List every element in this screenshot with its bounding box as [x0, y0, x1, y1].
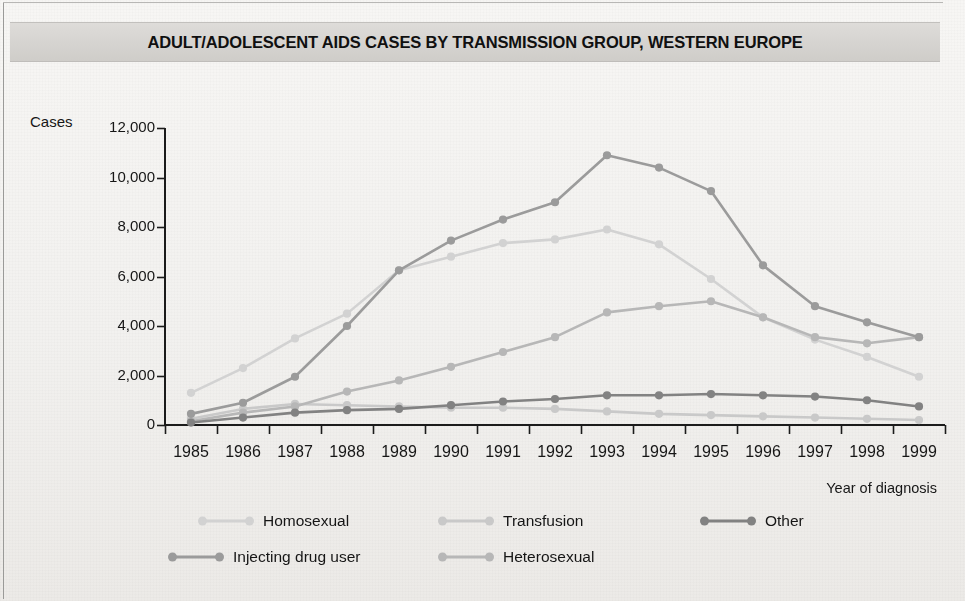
x-axis-tick-label: 1999: [893, 443, 945, 461]
x-axis-tick-label: 1996: [737, 443, 789, 461]
legend-swatch-icon: [438, 551, 494, 563]
legend-item-heterosexual[interactable]: Heterosexual: [438, 548, 594, 566]
chart-title-banner: ADULT/ADOLESCENT AIDS CASES BY TRANSMISS…: [10, 22, 940, 62]
chart-title: ADULT/ADOLESCENT AIDS CASES BY TRANSMISS…: [147, 33, 802, 52]
legend-item-transfusion[interactable]: Transfusion: [438, 512, 583, 530]
legend-label: Injecting drug user: [233, 548, 361, 566]
x-axis-tick-label: 1997: [789, 443, 841, 461]
x-axis-tick-label: 1992: [529, 443, 581, 461]
legend-swatch-icon: [168, 551, 224, 563]
legend-item-other[interactable]: Other: [700, 512, 804, 530]
legend-swatch-icon: [438, 515, 494, 527]
legend-label: Transfusion: [503, 512, 583, 530]
legend-label: Heterosexual: [503, 548, 594, 566]
chart-plot-region: Cases 02,0004,0006,0008,00010,00012,000 …: [0, 60, 965, 520]
x-axis-tick-label: 1989: [373, 443, 425, 461]
legend-label: Homosexual: [263, 512, 349, 530]
x-axis-tick-label: 1991: [477, 443, 529, 461]
legend-item-injecting-drug-user[interactable]: Injecting drug user: [168, 548, 361, 566]
y-axis-tick-label: 2,000: [117, 366, 155, 383]
x-axis-title: Year of diagnosis: [826, 480, 937, 496]
x-axis-tick-label: 1993: [581, 443, 633, 461]
y-axis-tick-label: 6,000: [117, 267, 155, 284]
y-axis-tick-label: 0: [147, 415, 155, 432]
legend-item-homosexual[interactable]: Homosexual: [198, 512, 349, 530]
x-axis-tick-label: 1988: [321, 443, 373, 461]
x-axis-tick-label: 1994: [633, 443, 685, 461]
y-axis-tick-label: 10,000: [109, 168, 155, 185]
legend-label: Other: [765, 512, 804, 530]
y-axis-tick-label: 4,000: [117, 316, 155, 333]
page-border-top: [3, 2, 943, 3]
x-axis-tick-label: 1990: [425, 443, 477, 461]
y-axis-tick-label: 8,000: [117, 217, 155, 234]
x-axis-tick-label: 1998: [841, 443, 893, 461]
x-axis-tick-label: 1995: [685, 443, 737, 461]
legend-swatch-icon: [700, 515, 756, 527]
x-axis-tick-label: 1986: [217, 443, 269, 461]
chart-legend: HomosexualTransfusionOtherInjecting drug…: [0, 508, 965, 588]
x-axis-tick-label: 1987: [269, 443, 321, 461]
x-axis-tick-label: 1985: [165, 443, 217, 461]
y-axis-tick-label: 12,000: [109, 118, 155, 135]
legend-swatch-icon: [198, 515, 254, 527]
